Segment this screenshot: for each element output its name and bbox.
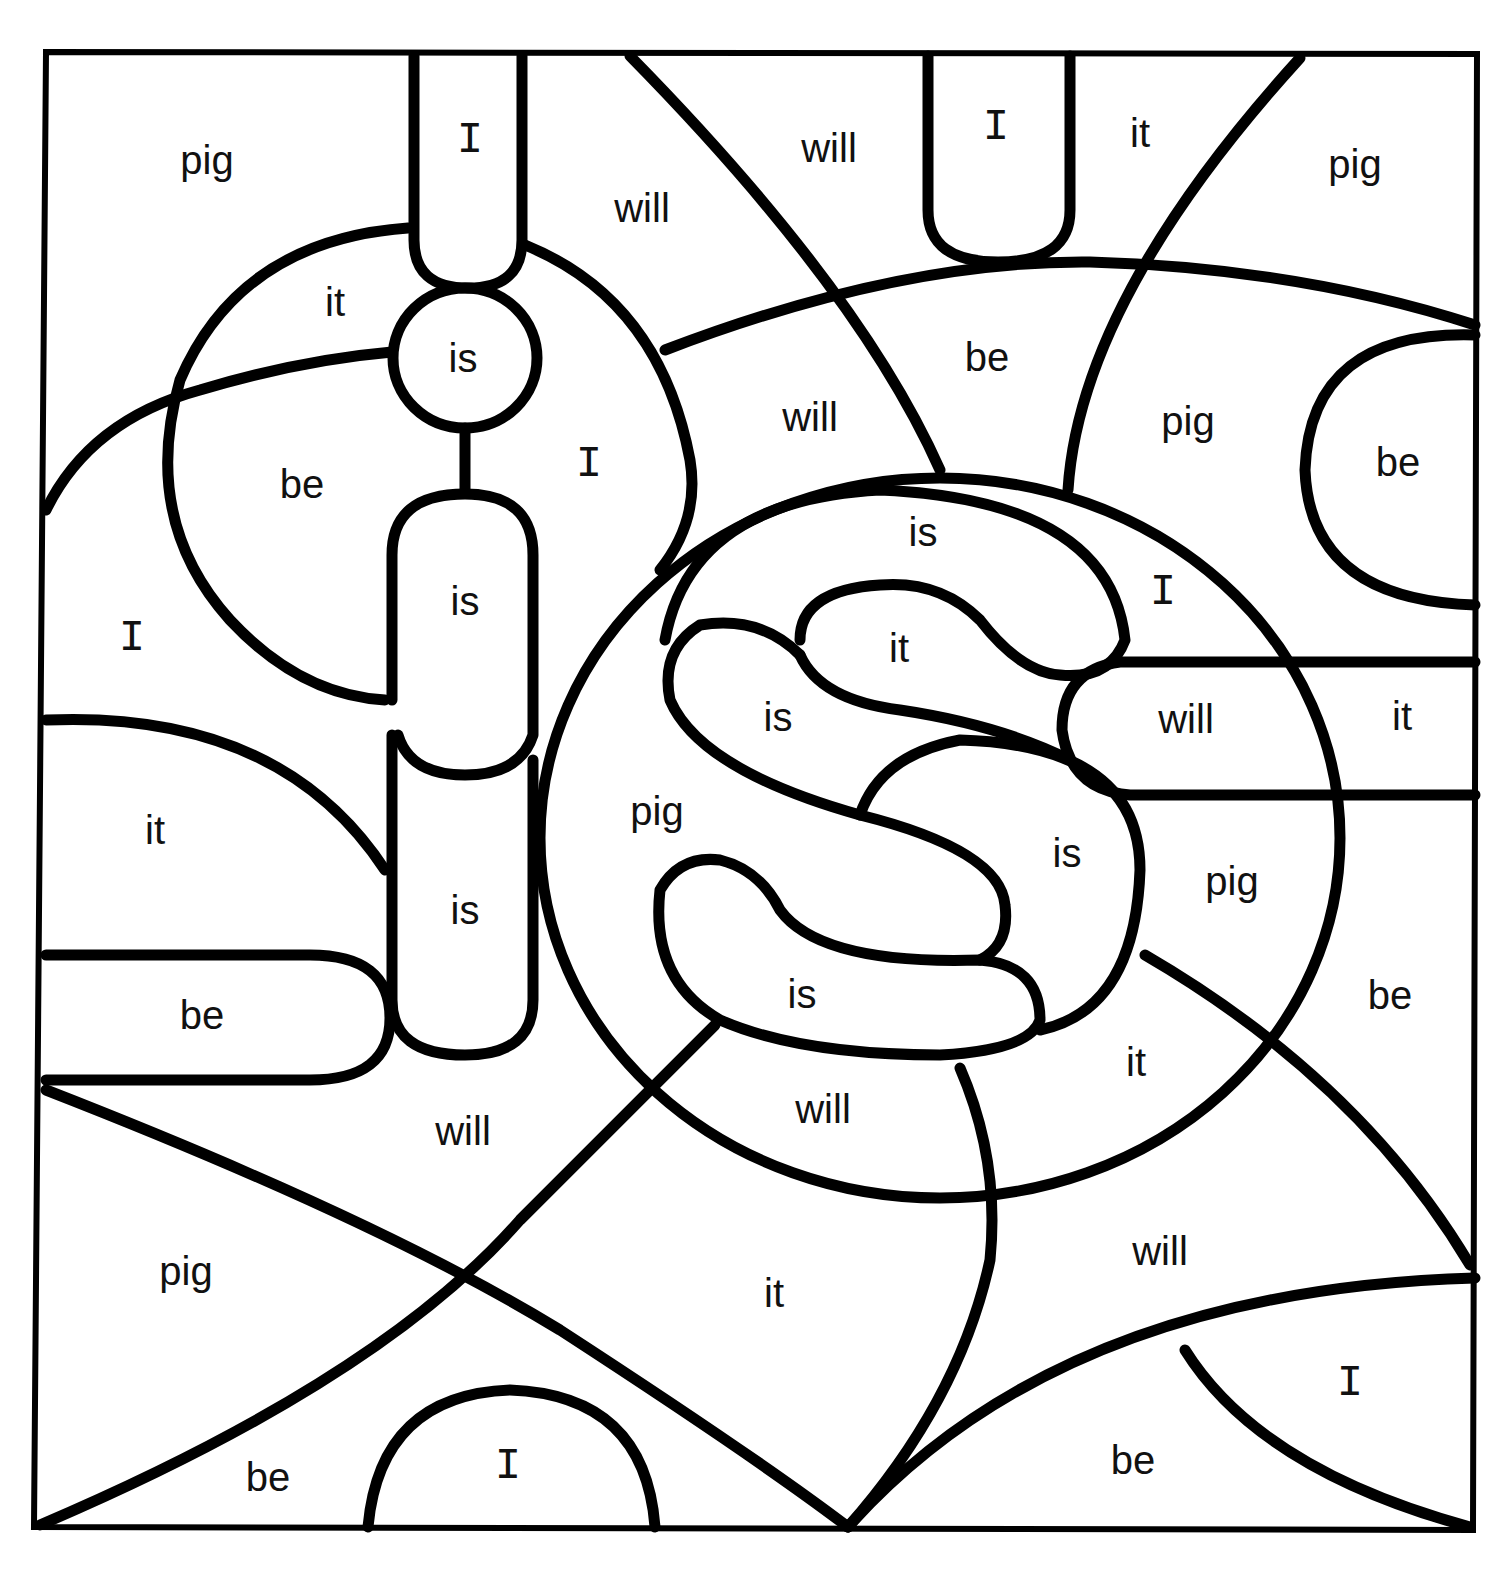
region-word-label: will [1158, 699, 1214, 739]
region-word-label: will [795, 1089, 851, 1129]
region-word-label: be [180, 995, 225, 1035]
region-word-label: pig [159, 1251, 212, 1291]
region-word-label: be [280, 464, 325, 504]
region-word-label: pig [180, 140, 233, 180]
region-word-label: is [909, 512, 938, 552]
region-word-label: pig [1205, 861, 1258, 901]
region-word-label: I [119, 616, 145, 660]
region-word-label: is [788, 974, 817, 1014]
region-word-label: I [495, 1444, 521, 1488]
region-word-label: I [1150, 570, 1176, 614]
region-word-label: I [576, 442, 602, 486]
region-word-label: it [764, 1273, 784, 1313]
color-by-word-worksheet: pigIwillwillIitpigitisbeIwillbepigbeisIi… [0, 0, 1511, 1571]
region-word-label: it [1126, 1042, 1146, 1082]
region-word-label: is [451, 890, 480, 930]
region-word-label: be [965, 337, 1010, 377]
region-word-label: be [246, 1457, 291, 1497]
region-word-label: is [764, 697, 793, 737]
region-word-label: is [1053, 833, 1082, 873]
region-word-label: it [325, 282, 345, 322]
region-word-label: I [457, 118, 483, 162]
region-word-label: be [1368, 975, 1413, 1015]
region-word-label: will [801, 128, 857, 168]
region-word-label: pig [630, 791, 683, 831]
region-word-label: it [889, 628, 909, 668]
region-word-label: will [614, 188, 670, 228]
region-word-label: will [435, 1111, 491, 1151]
region-word-label: be [1111, 1440, 1156, 1480]
worksheet-outline-drawing [0, 0, 1511, 1571]
region-word-label: it [1130, 113, 1150, 153]
region-word-label: I [1337, 1361, 1363, 1405]
region-word-label: pig [1161, 401, 1214, 441]
region-word-label: is [449, 338, 478, 378]
region-word-label: pig [1328, 144, 1381, 184]
region-word-label: will [782, 397, 838, 437]
region-word-label: it [145, 810, 165, 850]
region-word-label: will [1132, 1231, 1188, 1271]
region-word-label: I [983, 105, 1009, 149]
region-word-label: it [1392, 696, 1412, 736]
region-word-label: be [1376, 442, 1421, 482]
region-word-label: is [451, 581, 480, 621]
